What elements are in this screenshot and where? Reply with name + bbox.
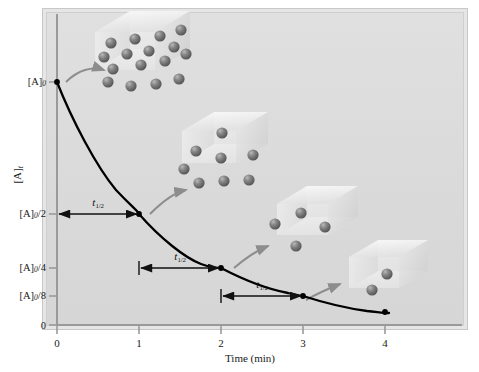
box-8-particles [178,112,268,189]
y-tick-label-zero: 0 [0,320,46,331]
y-tick-label-a0-over-2: [A]0/2 [0,208,46,221]
box-16-particles [95,11,192,92]
half-life-label-1: t1/2 [92,196,103,209]
y-tick-label-a0-over-4: [A]0/4 [0,262,46,275]
x-axis-title: Time (min) [225,352,275,364]
x-tick-label-0: 0 [54,337,60,349]
box-2-particles [349,240,428,296]
x-axis-ticks [57,325,385,334]
half-life-decay-figure: [A]0 [A]0/2 [A]0/4 [A]0/8 0 0 1 2 3 4 Ti… [0,0,479,372]
y-tick-label-a0: [A]0 [0,76,46,89]
figure-graphics [0,0,479,372]
x-tick-label-1: 1 [136,337,142,349]
y-axis-ticks [49,82,57,325]
half-life-label-3: t1/2 [256,278,267,291]
half-life-label-2: t1/2 [174,250,185,263]
x-tick-label-3: 3 [300,337,306,349]
x-tick-label-4: 4 [382,337,388,349]
y-axis-title: [A]t [11,153,25,197]
y-tick-label-a0-over-8: [A]0/8 [0,290,46,303]
box-4-particles [269,186,358,252]
x-tick-label-2: 2 [218,337,224,349]
